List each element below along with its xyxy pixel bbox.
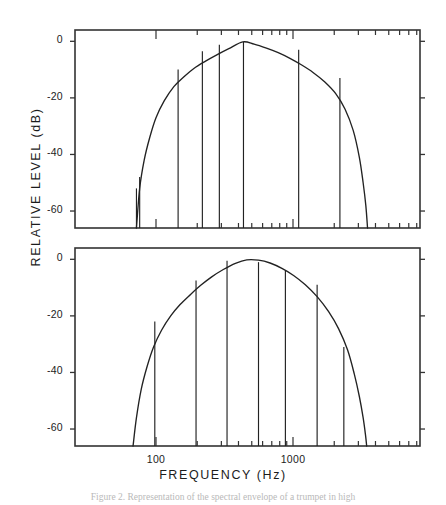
y-tick-label-0: 0 [23, 251, 63, 263]
y-tick-label-neg60: -60 [23, 203, 63, 215]
y-tick-label-neg60: -60 [23, 421, 63, 433]
spectral-envelope [133, 260, 367, 446]
y-tick-label-neg20: -20 [23, 308, 63, 320]
panel-frame [75, 30, 420, 228]
spectral-envelope [136, 42, 367, 228]
y-tick-label-neg20: -20 [23, 90, 63, 102]
x-axis-title: FREQUENCY (Hz) [0, 468, 446, 482]
x-tick-label-1000: 1000 [263, 453, 323, 465]
y-tick-label-neg40: -40 [23, 146, 63, 158]
panel-frame [75, 248, 420, 446]
x-tick-label-100: 100 [126, 453, 186, 465]
upper-panel [70, 30, 425, 228]
lower-panel [70, 248, 425, 446]
y-tick-label-neg40: -40 [23, 364, 63, 376]
figure-caption: Figure 2. Representation of the spectral… [0, 492, 446, 502]
y-tick-label-0: 0 [23, 33, 63, 45]
figure-container: RELATIVE LEVEL (dB) FREQUENCY (Hz) Figur… [0, 0, 446, 505]
plot-canvas [0, 0, 446, 505]
